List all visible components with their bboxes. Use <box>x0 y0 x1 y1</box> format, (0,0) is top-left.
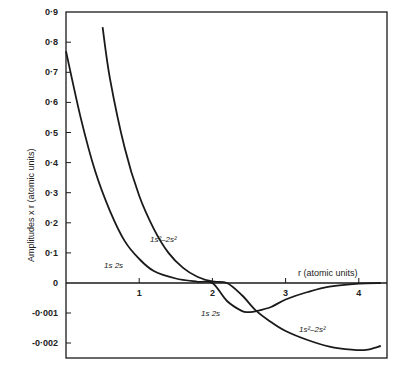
x-tick-label: 3 <box>283 288 288 298</box>
y-tick-label: -0·002 <box>32 338 58 348</box>
chart: 0·90·80·70·60·50·40·30·20·10-0·001-0·002… <box>0 0 397 368</box>
x-tick-label: 4 <box>356 288 361 298</box>
label-1s2s2-lower: 1s²–2s² <box>299 325 326 334</box>
plot-frame <box>66 12 387 358</box>
label-1s2s-upper: 1s 2s <box>104 261 123 270</box>
y-axis-title: Amplitudes x r (atomic units) <box>26 148 36 262</box>
x-axis-title: r (atomic units) <box>298 268 358 278</box>
label-1s2s-lower: 1s 2s <box>201 309 220 318</box>
y-tick-label: 0·9 <box>45 7 58 17</box>
y-tick-label: 0·3 <box>45 188 58 198</box>
y-tick-label: 0·6 <box>45 97 58 107</box>
y-tick-label: 0·2 <box>45 218 58 228</box>
y-tick-label: 0·5 <box>45 128 58 138</box>
y-tick-label: 0·8 <box>45 37 58 47</box>
y-tick-label: 0 <box>53 278 58 288</box>
x-axis-ticks: 1234 <box>137 278 362 298</box>
x-tick-label: 1 <box>137 288 142 298</box>
y-tick-label: 0·4 <box>45 158 58 168</box>
curve-1s2-2s2 <box>103 27 381 350</box>
y-tick-label: 0·1 <box>45 248 58 258</box>
y-axis-ticks: 0·90·80·70·60·50·40·30·20·10-0·001-0·002 <box>32 7 71 348</box>
x-tick-label: 2 <box>210 288 215 298</box>
label-1s2s2-upper: 1s²–2s² <box>150 235 177 244</box>
y-tick-label: -0·001 <box>32 308 58 318</box>
y-tick-label: 0·7 <box>45 67 58 77</box>
